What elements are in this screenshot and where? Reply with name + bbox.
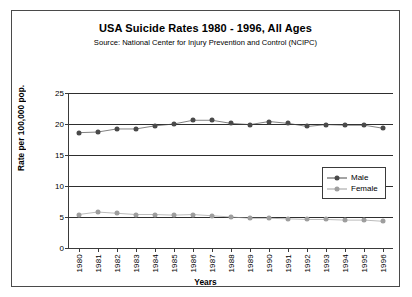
x-tick-label: 1981: [94, 254, 103, 273]
x-tick-mark: [136, 248, 137, 252]
data-point-female-1981: [95, 210, 100, 215]
data-point-female-1986: [190, 212, 195, 217]
data-point-male-1988: [229, 121, 234, 126]
data-point-male-1985: [171, 122, 176, 127]
data-point-male-1981: [95, 130, 100, 135]
chart-legend: MaleFemale: [322, 167, 386, 199]
x-tick-mark: [345, 248, 346, 252]
x-tick-label: 1985: [170, 254, 179, 273]
x-tick-mark: [79, 248, 80, 252]
data-point-female-1983: [133, 212, 138, 217]
data-point-male-1987: [209, 118, 214, 123]
legend-swatch-icon: [327, 185, 347, 192]
x-tick-mark: [231, 248, 232, 252]
y-tick-label: 15: [55, 151, 64, 160]
x-tick-label: 1995: [360, 254, 369, 273]
x-tick-mark: [212, 248, 213, 252]
y-tick-label: 0: [60, 244, 64, 253]
x-tick-label: 1990: [265, 254, 274, 273]
data-point-female-1993: [324, 217, 329, 222]
data-point-female-1988: [229, 215, 234, 220]
x-tick-mark: [174, 248, 175, 252]
x-tick-label: 1996: [379, 254, 388, 273]
data-point-female-1985: [171, 213, 176, 218]
data-point-female-1980: [76, 212, 81, 217]
data-point-male-1983: [133, 126, 138, 131]
x-tick-mark: [98, 248, 99, 252]
data-point-female-1996: [381, 219, 386, 224]
data-point-male-1996: [381, 126, 386, 131]
y-tick-label: 20: [55, 120, 64, 129]
data-point-female-1982: [114, 211, 119, 216]
data-point-female-1994: [343, 218, 348, 223]
data-point-female-1989: [248, 216, 253, 221]
legend-item-female: Female: [327, 183, 380, 194]
x-tick-label: 1992: [303, 254, 312, 273]
data-point-female-1992: [305, 217, 310, 222]
x-tick-label: 1991: [284, 254, 293, 273]
data-point-female-1984: [152, 212, 157, 217]
data-point-female-1995: [362, 218, 367, 223]
x-tick-label: 1984: [151, 254, 160, 273]
x-tick-label: 1989: [246, 254, 255, 273]
x-tick-mark: [383, 248, 384, 252]
y-axis-label: Rate per 100,000 pop.: [16, 85, 26, 171]
data-point-male-1986: [190, 118, 195, 123]
x-tick-mark: [250, 248, 251, 252]
data-point-male-1994: [343, 123, 348, 128]
x-tick-mark: [155, 248, 156, 252]
x-tick-label: 1988: [227, 254, 236, 273]
data-point-female-1991: [286, 216, 291, 221]
x-tick-mark: [364, 248, 365, 252]
legend-item-male: Male: [327, 172, 380, 183]
data-point-female-1987: [209, 213, 214, 218]
legend-label: Male: [351, 173, 368, 182]
data-point-female-1990: [267, 216, 272, 221]
data-point-male-1989: [248, 122, 253, 127]
data-point-male-1984: [152, 123, 157, 128]
chart-title: USA Suicide Rates 1980 - 1996, All Ages: [12, 22, 399, 34]
data-point-male-1993: [324, 122, 329, 127]
legend-swatch-icon: [327, 174, 347, 181]
data-point-male-1990: [267, 119, 272, 124]
y-tick-label: 25: [55, 89, 64, 98]
x-tick-mark: [269, 248, 270, 252]
x-tick-label: 1993: [322, 254, 331, 273]
y-tick-label: 10: [55, 182, 64, 191]
data-point-male-1980: [76, 130, 81, 135]
chart-figure: USA Suicide Rates 1980 - 1996, All Ages …: [11, 10, 400, 287]
x-tick-mark: [326, 248, 327, 252]
x-tick-mark: [307, 248, 308, 252]
data-point-male-1991: [286, 121, 291, 126]
x-tick-label: 1982: [113, 254, 122, 273]
y-tick-mark: [65, 248, 69, 249]
data-point-male-1992: [305, 124, 310, 129]
x-tick-label: 1983: [132, 254, 141, 273]
x-tick-mark: [117, 248, 118, 252]
x-tick-label: 1980: [75, 254, 84, 273]
x-tick-label: 1986: [189, 254, 198, 273]
x-axis-label: Years: [12, 277, 399, 287]
data-point-male-1982: [114, 126, 119, 131]
legend-label: Female: [351, 184, 378, 193]
chart-subtitle: Source: National Center for Injury Preve…: [12, 38, 399, 47]
x-tick-mark: [193, 248, 194, 252]
x-tick-label: 1994: [341, 254, 350, 273]
data-point-male-1995: [362, 123, 367, 128]
y-tick-label: 5: [60, 213, 64, 222]
x-tick-mark: [288, 248, 289, 252]
x-tick-label: 1987: [208, 254, 217, 273]
